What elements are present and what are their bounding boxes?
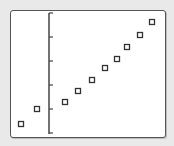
- data-point-marker: [76, 89, 81, 94]
- data-point-marker: [125, 45, 130, 50]
- data-point-marker: [90, 78, 95, 83]
- data-point-marker: [150, 20, 155, 25]
- scatter-plot: [0, 0, 174, 146]
- data-point-marker: [115, 57, 120, 62]
- data-point-marker: [138, 33, 143, 38]
- data-point-marker: [63, 100, 68, 105]
- data-point-marker: [19, 122, 24, 127]
- data-point-marker: [103, 66, 108, 71]
- data-point-marker: [35, 107, 40, 112]
